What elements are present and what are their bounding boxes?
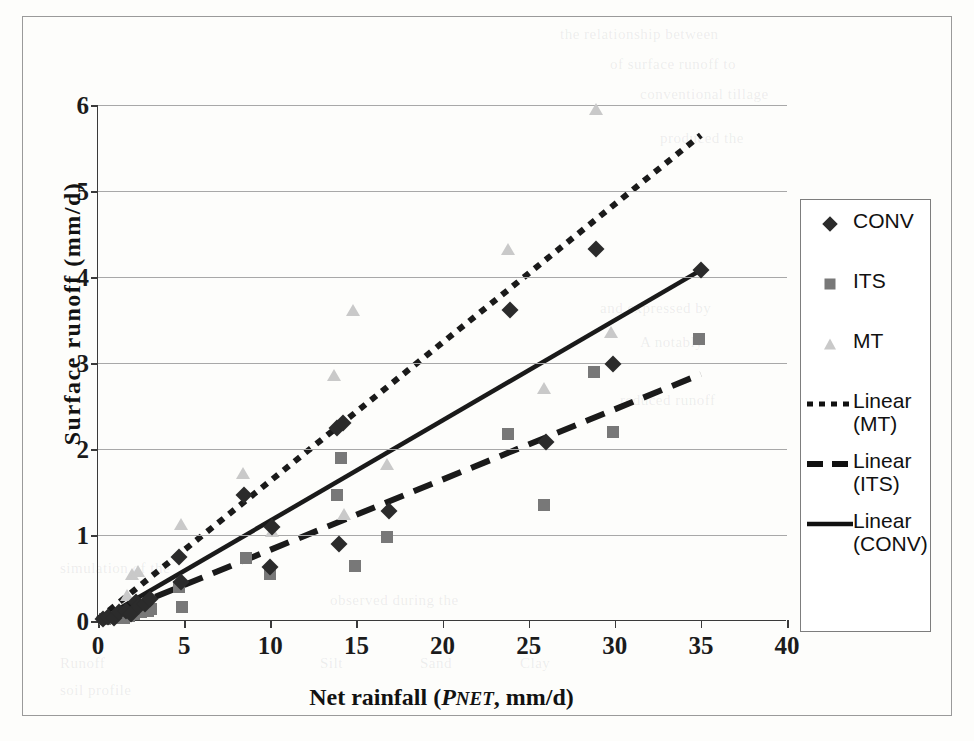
dashed-line-glyph: [807, 457, 853, 471]
triangle-marker-glyph: [824, 339, 836, 350]
x-tick-mark: [356, 620, 358, 628]
data-point-its: [381, 531, 393, 543]
data-point-mt: [604, 326, 618, 338]
data-point-its: [176, 601, 188, 613]
data-point-its: [240, 552, 252, 564]
square-marker: [807, 273, 853, 295]
data-point-its: [331, 489, 343, 501]
legend-label: ITS: [853, 270, 886, 293]
trendline-linearmt: [98, 135, 701, 619]
x-tick-label: 35: [688, 633, 713, 658]
x-tick-mark: [615, 620, 617, 628]
legend-label: Linear (MT): [853, 390, 911, 435]
x-axis-title: Net rainfall (PNET, mm/d): [97, 684, 786, 711]
gridline: [98, 449, 787, 450]
x-tick-label: 5: [178, 633, 191, 658]
y-tick-label: 0: [77, 609, 90, 634]
data-point-its: [607, 426, 619, 438]
legend-item-linearconv[interactable]: Linear (CONV): [801, 510, 930, 570]
data-point-mt: [380, 458, 394, 470]
y-tick-mark: [91, 363, 98, 365]
trendline-linearconv: [98, 270, 701, 621]
trendline-linearits: [98, 374, 701, 620]
dotted-line-glyph: [807, 397, 853, 411]
y-tick-mark: [91, 449, 98, 451]
x-tick-mark: [443, 620, 445, 628]
data-point-its: [538, 499, 550, 511]
x-title-main: Net rainfall (: [309, 684, 441, 710]
legend-label: CONV: [853, 210, 914, 233]
gridline: [98, 363, 787, 364]
data-point-its: [588, 366, 600, 378]
solid-line: [807, 513, 853, 535]
gridline: [98, 277, 787, 278]
data-point-mt: [174, 518, 188, 530]
plot-area: 01234560510152025303540: [97, 105, 786, 621]
x-title-variable: P: [441, 684, 456, 710]
legend-item-mt[interactable]: MT: [801, 330, 930, 390]
dashed-line: [807, 453, 853, 475]
gridline: [98, 535, 787, 536]
x-title-subscript: NET: [456, 688, 494, 709]
data-point-mt: [131, 565, 145, 577]
x-tick-mark: [787, 620, 789, 628]
data-point-mt: [589, 103, 603, 115]
x-tick-mark: [529, 620, 531, 628]
legend-label: Linear (ITS): [853, 450, 911, 495]
x-tick-mark: [270, 620, 272, 628]
gridline: [98, 105, 787, 106]
x-tick-label: 0: [92, 633, 105, 658]
solid-line-glyph: [807, 517, 853, 531]
x-tick-label: 20: [430, 633, 455, 658]
data-point-its: [502, 428, 514, 440]
legend-label: Linear (CONV): [853, 510, 928, 555]
gridline: [98, 191, 787, 192]
data-point-mt: [337, 508, 351, 520]
data-point-its: [349, 560, 361, 572]
x-tick-mark: [184, 620, 186, 628]
triangle-marker: [807, 333, 853, 355]
dotted-line: [807, 393, 853, 415]
legend-item-linearmt[interactable]: Linear (MT): [801, 390, 930, 450]
data-point-mt: [537, 382, 551, 394]
data-point-mt: [327, 369, 341, 381]
x-tick-label: 15: [344, 633, 369, 658]
x-tick-label: 25: [516, 633, 541, 658]
x-tick-label: 10: [258, 633, 283, 658]
chart-legend: CONVITSMTLinear (MT)Linear (ITS)Linear (…: [800, 199, 931, 632]
square-marker-glyph: [825, 279, 836, 290]
data-point-mt: [236, 467, 250, 479]
x-tick-mark: [701, 620, 703, 628]
diamond-marker-glyph: [822, 216, 838, 232]
x-tick-label: 30: [602, 633, 627, 658]
data-point-mt: [501, 243, 515, 255]
data-point-mt: [346, 304, 360, 316]
legend-item-its[interactable]: ITS: [801, 270, 930, 330]
y-tick-mark: [91, 191, 98, 193]
legend-item-conv[interactable]: CONV: [801, 210, 930, 270]
y-tick-mark: [91, 277, 98, 279]
legend-label: MT: [853, 330, 883, 353]
x-title-tail: , mm/d): [494, 684, 574, 710]
diamond-marker: [807, 213, 853, 235]
y-axis-title: Surface runoff (mm/d): [59, 94, 86, 534]
data-point-its: [335, 452, 347, 464]
legend-item-linearits[interactable]: Linear (ITS): [801, 450, 930, 510]
x-tick-label: 40: [775, 633, 800, 658]
data-point-its: [693, 333, 705, 345]
y-tick-mark: [91, 535, 98, 537]
scatter-chart: 01234560510152025303540 Surface runoff (…: [0, 0, 974, 741]
y-tick-mark: [91, 105, 98, 107]
